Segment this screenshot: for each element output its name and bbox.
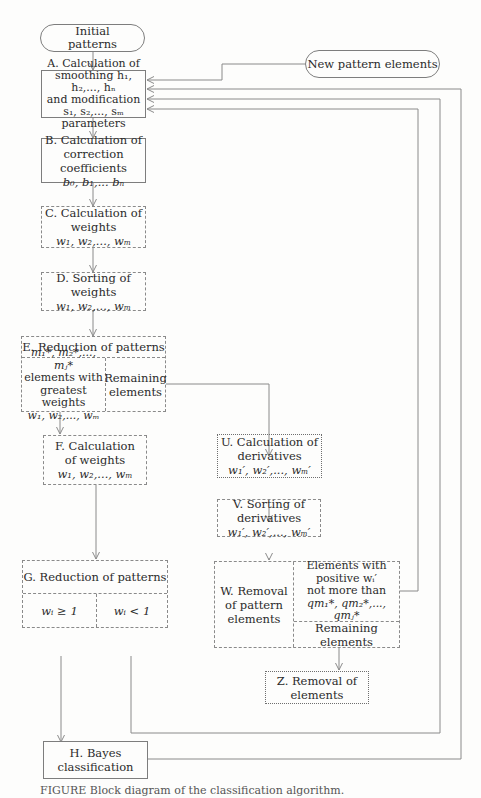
node-g-left-text: wᵢ ≥ 1 [41, 604, 77, 618]
node-e-remaining-elements-cell: Remaining elements [106, 358, 165, 411]
node-e-reduction-of-patterns: E. Reduction of patterns m₁*, m₂*,..., m… [21, 336, 166, 412]
node-h-bayes-classification: H. Bayes classification [43, 741, 148, 779]
node-f-line-3: w₁, w₂,..., wₘ [57, 467, 132, 481]
node-d-sorting-weights: D. Sorting of weights w₁, w₂,..., wₘ [41, 272, 146, 311]
node-w-removal-of-pattern-elements: W. Removal of pattern elements Elements … [214, 561, 400, 648]
node-f-line-2: of weights [65, 453, 125, 467]
node-z-label: Z. Removal of elements [266, 674, 368, 702]
node-b-line-3: b₀, b₁,... bₙ [63, 175, 125, 189]
node-c-calc-weights: C. Calculation of weights w₁, w₂,..., wₘ [41, 206, 146, 248]
node-a-calc-smoothing: A. Calculation of smoothing h₁, h₂,..., … [41, 70, 146, 118]
new-pattern-elements-terminal: New pattern elements [305, 50, 440, 78]
node-b-line-1: B. Calculation of [45, 133, 142, 147]
node-w-label-line-3: elements [228, 612, 281, 626]
node-c-line-1: C. Calculation of [45, 206, 142, 220]
node-d-line-2: w₁, w₂,..., wₘ [56, 299, 131, 313]
node-u-line-2: derivatives [237, 449, 301, 463]
node-g-right-text: wᵢ < 1 [114, 604, 150, 618]
node-v-line-2: w₁′, w₂′,..., wₘ′ [228, 525, 311, 539]
initial-patterns-line-2: patterns [68, 38, 117, 51]
node-g-reduction-of-patterns: G. Reduction of patterns wᵢ ≥ 1 wᵢ < 1 [22, 560, 168, 628]
node-w-top-line-4: qm₁*, qm₂*,..., qmⱼ* [294, 598, 399, 623]
node-w-label-cell: W. Removal of pattern elements [215, 562, 294, 647]
node-e-left-line-2: elements with [24, 372, 103, 385]
node-g-title: G. Reduction of patterns [23, 561, 167, 594]
node-a-line-4: s₁, s₂,..., sₘ parameters [42, 106, 145, 130]
initial-patterns-terminal: Initial patterns [40, 24, 145, 52]
node-b-correction-coefficients: B. Calculation of correction coefficient… [41, 138, 146, 183]
node-g-title-text: G. Reduction of patterns [24, 570, 167, 584]
node-b-line-2: correction coefficients [42, 147, 145, 175]
node-e-left-line-3: greatest weights [22, 385, 105, 410]
node-v-sorting-derivatives: V. Sorting of derivatives w₁′, w₂′,..., … [217, 499, 321, 537]
node-e-left-line-1: m₁*, m₂*,..., mⱼ* [22, 347, 105, 372]
node-z-removal-of-elements: Z. Removal of elements [265, 671, 369, 704]
node-w-remaining-elements-cell: Remaining elements [294, 622, 399, 647]
figure-caption: FIGURE Block diagram of the classificati… [40, 784, 344, 797]
node-w-top-line-3: not more than [307, 585, 386, 598]
node-f-line-1: F. Calculation [55, 439, 135, 453]
node-e-right-line-2: elements [109, 385, 162, 399]
node-e-left-line-4: w₁, w₂,..., wₘ [28, 410, 100, 423]
node-v-line-1: V. Sorting of derivatives [218, 497, 320, 525]
node-w-top-line-1: Elements with [306, 560, 386, 573]
node-w-bottom-text: Remaining elements [294, 621, 399, 649]
node-u-line-1: U. Calculation of [221, 435, 318, 449]
node-a-line-2: smoothing h₁, h₂,..., hₙ [42, 70, 145, 94]
node-u-line-3: w₁′, w₂′,..., wₘ′ [228, 463, 311, 477]
node-w-positive-elements-cell: Elements with positive wᵢ′ not more than… [294, 562, 399, 622]
node-w-label-line-2: of pattern [225, 598, 283, 612]
node-g-weight-lt-1-cell: wᵢ < 1 [97, 594, 167, 627]
node-w-label-line-1: W. Removal [220, 584, 287, 598]
node-d-line-1: D. Sorting of weights [42, 271, 145, 299]
node-c-line-2: weights [71, 220, 117, 234]
node-e-greatest-weights-cell: m₁*, m₂*,..., mⱼ* elements with greatest… [22, 358, 106, 411]
node-g-weight-ge-1-cell: wᵢ ≥ 1 [23, 594, 97, 627]
node-h-label: H. Bayes classification [44, 746, 147, 774]
node-e-right-line-1: Remaining [104, 371, 167, 385]
node-f-calc-weights: F. Calculation of weights w₁, w₂,..., wₘ [43, 435, 147, 485]
node-c-line-3: w₁, w₂,..., wₘ [56, 234, 131, 248]
new-pattern-elements-label: New pattern elements [307, 57, 437, 71]
node-u-calc-derivatives: U. Calculation of derivatives w₁′, w₂′,.… [217, 434, 322, 478]
